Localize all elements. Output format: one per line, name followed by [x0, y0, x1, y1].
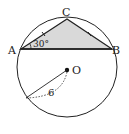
- label-a: A: [7, 44, 17, 57]
- angle-label: 30°: [33, 39, 49, 49]
- label-o: O: [72, 64, 81, 77]
- label-c: C: [62, 6, 70, 19]
- radius-label: 6: [48, 87, 54, 98]
- geometry-figure: A B C O 30° 6: [0, 0, 129, 134]
- radius-line: [26, 70, 67, 98]
- label-b: B: [112, 44, 120, 57]
